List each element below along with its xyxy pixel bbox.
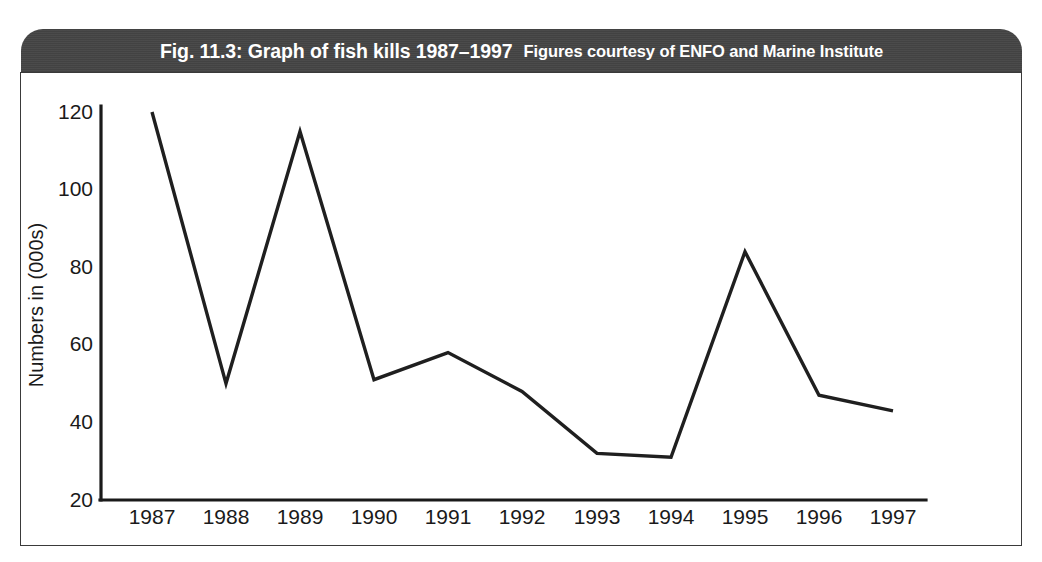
figure-caption-credit: Figures courtesy of ENFO and Marine Inst…: [524, 42, 883, 61]
figure-caption-bar: Fig. 11.3: Graph of fish kills 1987–1997…: [21, 29, 1022, 73]
plot-panel: [20, 72, 1022, 546]
figure-container: Fig. 11.3: Graph of fish kills 1987–1997…: [0, 0, 1042, 562]
figure-caption-main: Fig. 11.3: Graph of fish kills 1987–1997: [160, 40, 513, 63]
